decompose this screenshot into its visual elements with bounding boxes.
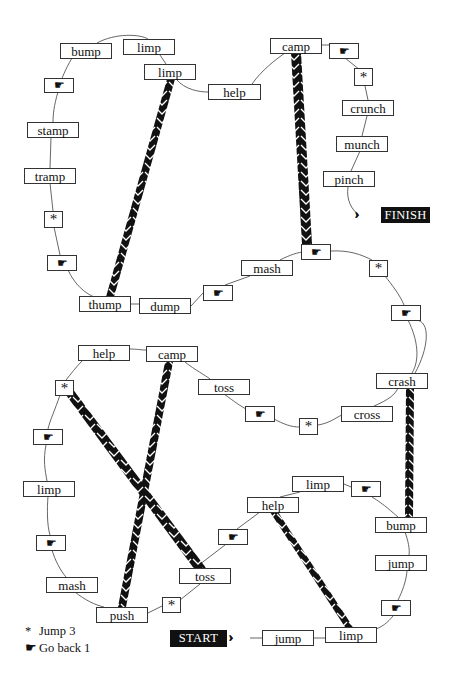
ladder-crash-bump: [405, 388, 414, 517]
square-mash-mid[interactable]: mash: [241, 260, 293, 276]
legend-go-back-text: Go back 1: [39, 641, 90, 655]
ladder-help-limp: [270, 512, 353, 627]
pointing-hand-icon: ☛: [25, 640, 39, 656]
start-banner[interactable]: START: [170, 630, 227, 647]
pointing-hand-icon[interactable]: ☛: [381, 600, 411, 616]
pointing-hand-icon[interactable]: ☛: [47, 255, 77, 271]
square-push[interactable]: push: [96, 607, 148, 623]
square-pinch[interactable]: pinch: [323, 171, 375, 187]
square-bump-top[interactable]: bump: [60, 43, 112, 59]
pointing-hand-icon[interactable]: ☛: [44, 78, 74, 93]
square-tramp[interactable]: tramp: [24, 168, 76, 184]
square-munch[interactable]: munch: [336, 136, 388, 152]
asterisk-icon[interactable]: *: [354, 68, 373, 86]
asterisk-icon[interactable]: *: [55, 380, 74, 396]
asterisk-icon[interactable]: *: [44, 211, 63, 228]
asterisk-icon[interactable]: *: [162, 597, 181, 613]
square-limp-upper[interactable]: limp: [144, 64, 196, 80]
square-mash-lower[interactable]: mash: [46, 577, 98, 593]
square-cross[interactable]: cross: [341, 406, 393, 422]
pointing-hand-icon[interactable]: ☛: [218, 529, 248, 545]
pointing-hand-icon[interactable]: ☛: [36, 535, 66, 551]
square-limp-left[interactable]: limp: [23, 481, 75, 497]
square-stamp[interactable]: stamp: [27, 122, 79, 138]
square-toss-mid[interactable]: toss: [198, 379, 250, 395]
square-crash[interactable]: crash: [376, 373, 428, 389]
pointing-hand-icon[interactable]: ☛: [301, 244, 331, 260]
ladder-camp-push: [118, 362, 173, 607]
legend-jump: *Jump 3: [25, 624, 75, 639]
pointing-hand-icon[interactable]: ☛: [245, 406, 275, 422]
square-camp-top[interactable]: camp: [270, 38, 322, 54]
finish-banner[interactable]: FINISH: [381, 207, 430, 223]
square-help-lower[interactable]: help: [247, 497, 299, 513]
pointing-hand-icon[interactable]: ☛: [203, 285, 233, 301]
square-toss-lower[interactable]: toss: [179, 568, 231, 584]
ladder-camp-hand: [291, 53, 312, 244]
pointing-hand-icon[interactable]: ☛: [329, 43, 359, 59]
pointing-hand-icon[interactable]: ☛: [391, 305, 421, 321]
square-limp-top[interactable]: limp: [123, 39, 175, 55]
pointing-hand-icon[interactable]: ☛: [33, 429, 63, 445]
square-help-lower-left[interactable]: help: [78, 345, 130, 361]
asterisk-icon[interactable]: *: [299, 418, 318, 435]
square-limp-bottom[interactable]: limp: [325, 627, 377, 643]
asterisk-icon: *: [25, 624, 39, 639]
asterisk-icon[interactable]: *: [369, 260, 388, 277]
ladder-thump-limp: [106, 79, 175, 297]
square-bump-lower[interactable]: bump: [375, 517, 427, 533]
square-jump-right[interactable]: jump: [375, 555, 427, 571]
square-thump[interactable]: thump: [79, 296, 131, 312]
square-camp-lower[interactable]: camp: [146, 346, 198, 362]
square-limp-lower-right[interactable]: limp: [292, 476, 344, 492]
square-jump-bottom[interactable]: jump: [262, 630, 314, 646]
legend-go-back: ☛Go back 1: [25, 640, 90, 656]
legend-jump-text: Jump 3: [39, 624, 75, 638]
pointing-hand-icon[interactable]: ☛: [351, 481, 381, 497]
square-help-top[interactable]: help: [208, 84, 261, 100]
square-crunch[interactable]: crunch: [342, 100, 394, 116]
square-dump[interactable]: dump: [139, 298, 191, 314]
